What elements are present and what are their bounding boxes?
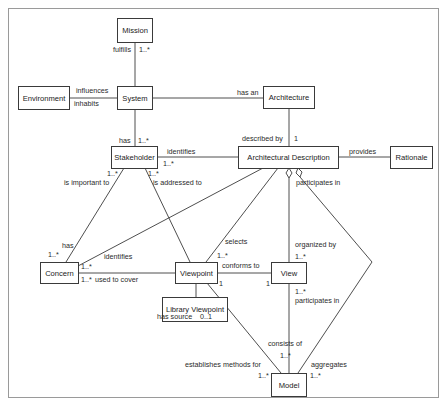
mult-has-source: 0..1 — [200, 313, 212, 320]
label-identifies-concern: identifies — [104, 253, 132, 260]
mult-is-important-to: 1..* — [107, 170, 118, 177]
class-label: Viewpoint — [180, 269, 213, 278]
mult-consists-of: 1..* — [280, 352, 291, 359]
mult-is-addressed-to: 1..* — [148, 170, 159, 177]
class-stakeholder: Stakeholder — [111, 146, 158, 169]
mult-described-by: 1 — [294, 135, 298, 142]
class-label: Architecture — [269, 93, 310, 102]
class-label: Rationale — [395, 153, 427, 162]
label-has-source: has source — [157, 313, 192, 320]
mult-fulfills: 1..* — [139, 46, 150, 53]
mult-establishes: 1..* — [258, 372, 269, 379]
label-selects: selects — [225, 238, 247, 245]
class-label: Stakeholder — [114, 153, 155, 162]
mult-concern-bottom: 1..* — [81, 276, 92, 283]
label-provides: provides — [349, 148, 376, 155]
mult-concern-has: 1..* — [48, 251, 59, 258]
label-identifies-stakeholder: identifies — [167, 148, 195, 155]
mult-view-1: 1 — [266, 280, 270, 287]
class-label: Mission — [122, 26, 148, 35]
label-fulfills: fulfills — [113, 46, 131, 53]
label-inhabits: inhabits — [74, 100, 99, 107]
class-label: Concern — [45, 269, 74, 278]
label-aggregates: aggregates — [311, 361, 347, 368]
uml-diagram: Mission Environment System Architecture … — [0, 0, 447, 409]
class-rationale: Rationale — [390, 146, 433, 169]
mult-selects: 1..* — [217, 252, 228, 259]
mult-participates-in-view: 1..* — [295, 288, 306, 295]
label-has-an: has an — [237, 89, 259, 96]
mult-concern-top: 1..* — [81, 263, 92, 270]
class-environment: Environment — [18, 86, 70, 110]
class-model: Model — [271, 373, 307, 397]
label-conforms-to: conforms to — [222, 262, 260, 269]
class-label: Model — [279, 381, 300, 390]
label-is-addressed-to: is addressed to — [153, 179, 202, 186]
label-has: has — [119, 137, 131, 144]
class-label: Architectural Description — [247, 153, 329, 162]
label-participates-in-view: participates in — [295, 297, 339, 304]
class-label: System — [122, 94, 147, 103]
mult-organized-by: 1..* — [295, 253, 306, 260]
label-participates-in-ad: participates in — [296, 179, 340, 186]
mult-aggregates: 1..* — [310, 372, 321, 379]
mult-identifies-stakeholder: 1..* — [163, 160, 174, 167]
class-system: System — [117, 86, 153, 110]
label-influences: influences — [76, 87, 108, 94]
class-viewpoint: Viewpoint — [175, 262, 218, 284]
label-establishes-methods-for: establishes methods for — [185, 361, 261, 368]
label-used-to-cover: used to cover — [95, 276, 138, 283]
class-architecture: Architecture — [263, 86, 315, 109]
class-mission: Mission — [117, 18, 153, 43]
label-concern-has: has — [62, 242, 74, 249]
class-concern: Concern — [40, 262, 79, 284]
label-organized-by: organized by — [295, 241, 336, 248]
label-is-important-to: is important to — [64, 179, 109, 186]
label-consists-of: consists of — [268, 340, 302, 347]
class-label: Environment — [23, 94, 66, 103]
mult-has: 1..* — [138, 137, 149, 144]
class-view: View — [271, 262, 307, 284]
label-described-by: described by — [242, 135, 283, 142]
class-architectural-description: Architectural Description — [238, 146, 339, 169]
mult-viewpoint-1: 1 — [219, 280, 223, 287]
association-lines — [0, 0, 447, 409]
class-label: View — [281, 269, 297, 278]
